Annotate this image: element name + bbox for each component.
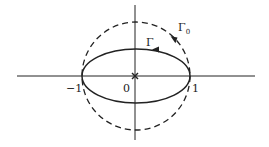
gamma0-label: Γ0 bbox=[178, 21, 190, 36]
gamma0-direction-arrow-icon bbox=[170, 36, 178, 43]
gamma-label: Γ bbox=[146, 36, 154, 49]
diagram-canvas: Γ Γ0 −1 0 1 bbox=[0, 0, 269, 147]
tick-label-one: 1 bbox=[192, 82, 199, 95]
tick-label-minus-one: −1 bbox=[66, 82, 82, 95]
origin-label: 0 bbox=[123, 82, 130, 95]
contour-diagram: Γ Γ0 −1 0 1 bbox=[0, 0, 269, 147]
